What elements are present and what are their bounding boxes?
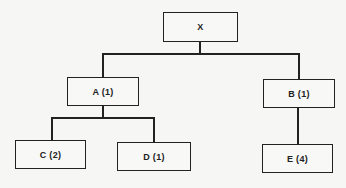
node-x: X (163, 12, 238, 42)
node-e-label: E (4) (287, 154, 308, 164)
node-b: B (1) (263, 79, 335, 108)
connector-to-b (298, 53, 300, 79)
node-d: D (1) (117, 142, 191, 171)
node-a-label: A (1) (92, 87, 113, 97)
node-c-label: C (2) (40, 150, 62, 160)
node-d-label: D (1) (143, 152, 165, 162)
connector-to-d (153, 117, 155, 142)
connector-to-a (102, 53, 104, 77)
connector-to-c (51, 117, 53, 140)
connector-b-to-e (297, 108, 299, 144)
node-c: C (2) (15, 140, 86, 169)
connector-a-bar (51, 117, 155, 119)
node-a: A (1) (67, 77, 139, 106)
node-b-label: B (1) (288, 89, 310, 99)
node-e: E (4) (262, 144, 333, 173)
node-x-label: X (197, 22, 203, 32)
tree-diagram: X A (1) B (1) C (2) D (1) E (4) (0, 0, 346, 188)
connector-x-bar (102, 53, 300, 55)
